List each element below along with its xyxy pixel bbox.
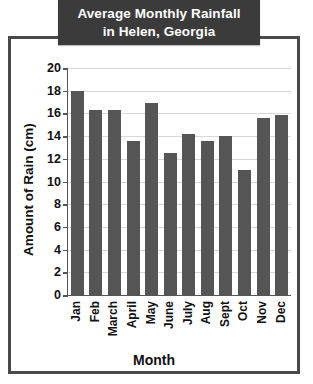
y-axis-tick-label: 14 <box>47 129 61 143</box>
y-axis-tick-label: 6 <box>54 220 61 234</box>
x-axis-tick-label: Jan <box>69 301 83 322</box>
x-axis-tick-label: Sept <box>218 301 232 327</box>
x-label-slot: July <box>178 299 197 355</box>
bar-oct <box>238 170 251 295</box>
plot-area: 02468101214161820 <box>67 68 291 296</box>
bar-sept <box>219 136 232 295</box>
y-axis-tick-label: 4 <box>54 243 61 257</box>
bar-slot <box>68 68 87 295</box>
x-label-slot: April <box>123 299 142 355</box>
chart-figure: Average Monthly Rainfall in Helen, Georg… <box>0 0 313 384</box>
x-axis-tick-label: Aug <box>199 301 213 324</box>
x-label-slot: June <box>160 299 179 355</box>
y-axis-tick-label: 10 <box>47 175 61 189</box>
bar-april <box>127 141 140 295</box>
bar-slot <box>272 68 291 295</box>
bar-slot <box>235 68 254 295</box>
bar-slot <box>198 68 217 295</box>
x-label-slot: Dec <box>271 299 290 355</box>
y-axis-title: Amount of Rain (cm) <box>21 90 36 290</box>
y-axis-tick-label: 16 <box>47 106 61 120</box>
x-label-slot: Aug <box>197 299 216 355</box>
bar-slot <box>87 68 106 295</box>
x-axis-tick-label: June <box>162 301 176 329</box>
chart-title-banner: Average Monthly Rainfall in Helen, Georg… <box>58 0 260 45</box>
bar-slot <box>161 68 180 295</box>
x-axis-tick-label: April <box>125 301 139 328</box>
bars-group <box>68 68 291 295</box>
y-axis-tick-label: 0 <box>54 288 61 302</box>
y-axis-tick-label: 18 <box>47 84 61 98</box>
x-axis-tick-label: July <box>181 301 195 325</box>
bar-nov <box>257 118 270 295</box>
bar-may <box>145 103 158 295</box>
bar-slot <box>142 68 161 295</box>
x-axis-title: Month <box>8 352 300 368</box>
x-label-slot: May <box>141 299 160 355</box>
x-axis-tick-label: Oct <box>236 301 250 321</box>
x-axis-tick-label: Feb <box>88 301 102 322</box>
chart-title-line-1: Average Monthly Rainfall <box>77 5 240 23</box>
bar-june <box>164 153 177 295</box>
bar-slot <box>217 68 236 295</box>
bar-feb <box>89 110 102 295</box>
x-label-slot: Oct <box>234 299 253 355</box>
y-axis-tick-label: 2 <box>54 265 61 279</box>
bar-july <box>182 134 195 295</box>
y-axis-tick-label: 20 <box>47 61 61 75</box>
y-axis-tick-label: 8 <box>54 197 61 211</box>
x-label-slot: Jan <box>67 299 86 355</box>
bar-slot <box>105 68 124 295</box>
x-label-slot: March <box>104 299 123 355</box>
bar-march <box>108 110 121 295</box>
bar-jan <box>71 91 84 295</box>
x-label-slot: Sept <box>216 299 235 355</box>
x-axis-tick-label: Nov <box>255 301 269 324</box>
x-label-slot: Feb <box>86 299 105 355</box>
y-axis-tick <box>63 295 68 297</box>
chart-title-line-2: in Helen, Georgia <box>103 23 216 41</box>
x-axis-tick-label: March <box>106 301 120 336</box>
y-axis-tick-label: 12 <box>47 152 61 166</box>
x-axis-tick-label: Dec <box>274 301 288 323</box>
bar-slot <box>254 68 273 295</box>
bar-dec <box>275 115 288 295</box>
x-axis-tick-labels: JanFebMarchAprilMayJuneJulyAugSeptOctNov… <box>67 299 290 355</box>
x-axis-tick-label: May <box>144 301 158 324</box>
x-label-slot: Nov <box>253 299 272 355</box>
bar-slot <box>124 68 143 295</box>
bar-aug <box>201 141 214 295</box>
bar-slot <box>179 68 198 295</box>
